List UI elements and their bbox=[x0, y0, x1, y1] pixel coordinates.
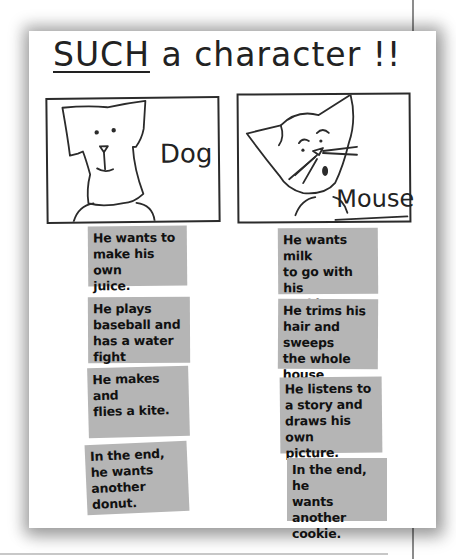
mouse-card-1: He wants milk to go with his cookie. bbox=[278, 228, 378, 295]
mouse-label: Mouse bbox=[336, 184, 414, 213]
dog-card-3: He makes and flies a kite. bbox=[87, 366, 190, 439]
mouse-panel: Mouse bbox=[237, 92, 412, 223]
mouse-card-2: He trims his hair and sweeps the whole h… bbox=[278, 299, 378, 370]
title-emphasis: SUCH bbox=[53, 35, 150, 74]
anchor-chart-poster: SUCH a character !! Dog bbox=[29, 31, 436, 528]
dog-card-1: He wants to make his own juice. bbox=[88, 226, 188, 287]
title-rest: a character !! bbox=[150, 35, 401, 74]
dog-panel: Dog bbox=[45, 96, 220, 224]
dog-card-4: In the end, he wants another donut. bbox=[85, 441, 190, 515]
mouse-card-4: In the end, he wants another cookie. bbox=[287, 458, 387, 521]
dog-label: Dog bbox=[160, 138, 213, 169]
photo-stage: SUCH a character !! Dog bbox=[0, 0, 456, 559]
poster-title: SUCH a character !! bbox=[53, 35, 401, 74]
wall-line-horizontal bbox=[0, 553, 388, 555]
mouse-card-3: He listens to a story and draws his own … bbox=[280, 376, 383, 453]
dog-card-2: He plays baseball and has a water fight bbox=[88, 297, 190, 364]
